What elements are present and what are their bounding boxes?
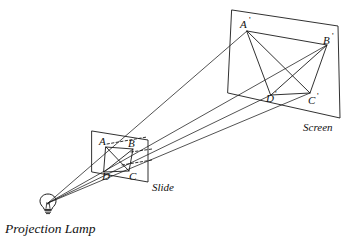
prime-mark-C: ' (317, 91, 319, 101)
prime-mark-A: ' (249, 15, 251, 25)
label-B: B (128, 137, 135, 149)
projection-lamp (40, 194, 56, 214)
captions: Slide Screen Projection Lamp (4, 121, 333, 236)
label-C-prime: C (308, 94, 316, 106)
bulb-base-icon (44, 211, 51, 214)
bulb-glass-icon (40, 194, 56, 209)
label-B-prime: B (323, 34, 330, 46)
ray-to-C-prime (48, 93, 310, 203)
dashed-line-upper (107, 137, 147, 144)
bulb-filament-icon (46, 203, 50, 209)
projection-rays (48, 31, 327, 203)
label-C: C (129, 170, 137, 182)
prime-mark-B: ' (332, 31, 334, 41)
label-D: D (101, 170, 110, 182)
screen-quadrilateral (247, 31, 327, 95)
diagram-canvas: A B C D A ' B ' C ' D ' Slide Screen Pro… (0, 0, 351, 239)
screen-point-labels: A ' B ' C ' D ' (239, 15, 334, 106)
label-A-prime: A (239, 18, 247, 30)
caption-projection-lamp: Projection Lamp (4, 221, 96, 236)
ray-to-A-prime (48, 31, 247, 203)
projection-diagram: A B C D A ' B ' C ' D ' Slide Screen Pro… (0, 0, 351, 239)
label-A: A (98, 135, 106, 147)
caption-screen: Screen (303, 121, 333, 133)
label-D-prime: D (265, 92, 274, 104)
screen-quad-outline (247, 31, 327, 95)
dashed-line-lower (122, 160, 152, 165)
dashed-line-middle (131, 149, 152, 152)
caption-slide: Slide (152, 181, 174, 193)
